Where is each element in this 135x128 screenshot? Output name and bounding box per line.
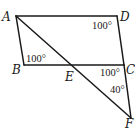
geometry-diagram: A D B C E F 100° 100° 100° 40°: [0, 0, 135, 128]
point-label-b: B: [11, 63, 21, 77]
point-label-c: C: [126, 63, 135, 77]
point-label-f: F: [124, 117, 134, 128]
point-label-d: D: [119, 10, 130, 24]
angle-label-b: 100°: [26, 53, 46, 64]
angle-label-f: 40°: [110, 84, 125, 95]
segment-AB: [16, 16, 24, 65]
angle-label-c: 100°: [100, 67, 120, 78]
angle-label-d: 100°: [92, 20, 112, 31]
point-label-a: A: [1, 10, 11, 24]
point-label-e: E: [64, 70, 74, 84]
